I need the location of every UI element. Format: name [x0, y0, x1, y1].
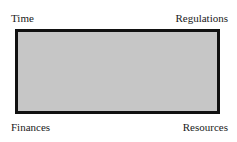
label-time: Time	[11, 12, 34, 24]
label-finances: Finances	[11, 121, 50, 133]
label-regulations: Regulations	[175, 12, 228, 24]
label-resources: Resources	[183, 121, 228, 133]
constraint-box	[15, 29, 220, 114]
